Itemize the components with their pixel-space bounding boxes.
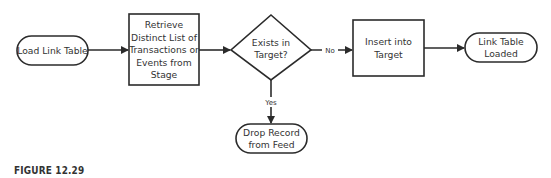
node-retrieve-line-5: Stage	[151, 69, 178, 80]
node-insert-line-2: Target	[373, 49, 403, 60]
node-decision-line-1: Exists in	[252, 37, 290, 48]
edge-label-no: No	[325, 47, 335, 55]
node-load-link-table: Load Link Table	[17, 36, 88, 65]
node-load-link-table-text: Load Link Table	[17, 45, 88, 56]
figure-caption: FIGURE 12.29	[14, 164, 84, 176]
edge-label-yes: Yes	[264, 99, 277, 107]
node-insert-line-1: Insert into	[365, 36, 412, 47]
node-decision-line-2: Target?	[253, 49, 287, 60]
node-retrieve-line-3: Transactions or	[128, 44, 199, 55]
node-retrieve-line-2: Distinct List of	[131, 32, 198, 43]
node-exists-in-target: Exists in Target?	[231, 15, 311, 80]
flowchart: No Yes Load Link Table Retrieve Distinct…	[0, 0, 551, 178]
node-end-line-2: Loaded	[484, 48, 518, 59]
node-drop-record-from-feed: Drop Record from Feed	[236, 124, 307, 153]
node-retrieve-line-1: Retrieve	[145, 19, 184, 30]
node-drop-line-2: from Feed	[248, 139, 294, 150]
node-retrieve-distinct-list: Retrieve Distinct List of Transactions o…	[128, 14, 199, 85]
node-insert-into-target: Insert into Target	[353, 20, 424, 76]
node-retrieve-line-4: Events from	[136, 57, 191, 68]
node-end-line-1: Link Table	[478, 36, 524, 47]
node-link-table-loaded: Link Table Loaded	[465, 33, 537, 62]
node-drop-line-1: Drop Record	[243, 127, 300, 138]
